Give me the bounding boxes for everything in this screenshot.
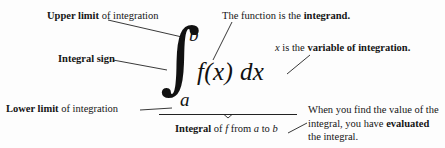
label-brace-mid2: from <box>228 123 254 134</box>
definite-integral-formula: ∫ b a f(x) dx <box>160 22 310 117</box>
label-upper-limit-rest: of integration <box>99 10 158 21</box>
label-lower-limit-rest: of integration <box>59 103 118 114</box>
integral-anatomy-figure: ∫ b a f(x) dx Upper limit of integration… <box>0 0 445 148</box>
label-brace-b: b <box>272 123 277 134</box>
label-brace-mid3: to <box>259 123 272 134</box>
label-integral-reading: Integral of f from a to b <box>175 123 278 135</box>
label-brace-mid: of <box>211 123 225 134</box>
label-integral-sign-bold: Integral sign <box>58 53 115 64</box>
label-evaluated-line3: the integral. <box>308 131 358 142</box>
label-evaluated-bold: evaluated <box>386 118 429 129</box>
leader-line-evaluated <box>288 123 307 133</box>
label-variable-of-integration: x is the variable of integration. <box>275 42 410 54</box>
lower-bound-value: a <box>180 90 190 109</box>
integrand-expression: f(x) dx <box>197 59 264 84</box>
label-variable-lead: is the <box>280 42 308 53</box>
label-integrand-lead: The function is the <box>222 10 304 21</box>
label-lower-limit: Lower limit of integration <box>6 103 118 115</box>
label-integrand-bold: integrand. <box>304 10 350 21</box>
label-upper-limit: Upper limit of integration <box>47 10 159 22</box>
label-evaluated-note: When you find the value of the integral,… <box>308 103 440 144</box>
upper-bound-value: b <box>189 25 199 44</box>
label-lower-limit-bold: Lower limit <box>6 103 59 114</box>
label-brace-bold: Integral <box>175 123 211 134</box>
label-evaluated-line1: When you find the value <box>308 104 412 115</box>
label-integrand: The function is the integrand. <box>222 10 350 22</box>
label-integral-sign: Integral sign <box>58 53 115 65</box>
label-upper-limit-bold: Upper limit <box>47 10 99 21</box>
leader-line-integral-sign <box>113 60 167 70</box>
label-variable-bold: variable of integration. <box>307 42 410 53</box>
